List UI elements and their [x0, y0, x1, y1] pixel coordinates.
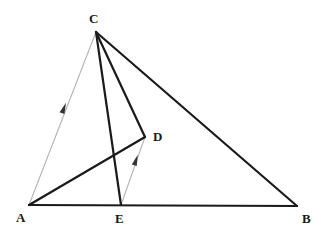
segment-AD — [29, 137, 145, 205]
parallel-mark-group — [60, 102, 141, 166]
vertex-label-A: A — [16, 211, 25, 224]
vertex-label-D: D — [153, 130, 162, 143]
segment-AB — [29, 205, 297, 206]
vertex-label-C: C — [89, 12, 98, 25]
geometry-figure: A B C D E — [0, 0, 328, 240]
segment-CB — [96, 32, 297, 206]
vertex-label-B: B — [302, 212, 311, 225]
vertex-label-E: E — [115, 212, 124, 225]
segment-ED — [121, 137, 145, 205]
geometry-canvas — [0, 0, 328, 240]
segment-AC — [29, 32, 96, 205]
solid-line-group — [29, 32, 297, 206]
